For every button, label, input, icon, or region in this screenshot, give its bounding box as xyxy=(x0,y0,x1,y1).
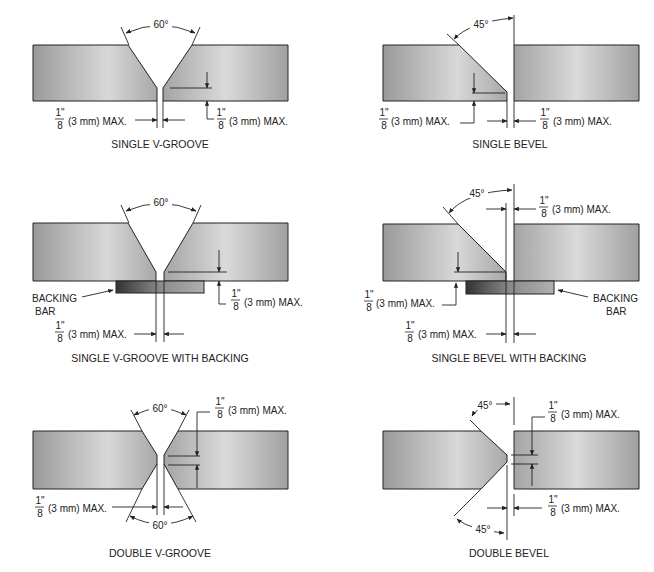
angle-label: 60° xyxy=(153,19,168,30)
caption: SINGLE BEVEL xyxy=(472,138,547,150)
svg-text:8: 8 xyxy=(57,333,63,344)
svg-text:1": 1" xyxy=(540,107,550,118)
svg-text:(3 mm) MAX.: (3 mm) MAX. xyxy=(552,204,611,215)
root-opening-dimension: 1" 8 (3 mm) MAX. xyxy=(55,107,127,131)
top-root-opening-dimension: 1" 8 (3 mm) MAX. xyxy=(539,195,611,219)
angle-label-top: 60° xyxy=(152,403,167,414)
svg-text:1": 1" xyxy=(55,107,65,118)
root-opening-dimension: 1" 8 (3 mm) MAX. xyxy=(548,494,620,518)
right-plate xyxy=(514,224,639,281)
svg-text:8: 8 xyxy=(37,508,43,519)
svg-text:1": 1" xyxy=(215,396,225,407)
caption: DOUBLE BEVEL xyxy=(469,547,549,559)
root-opening-dimension: 1" 8 (3 mm) MAX. xyxy=(405,320,477,344)
svg-text:8: 8 xyxy=(407,333,413,344)
left-plate xyxy=(33,431,157,489)
svg-text:(3 mm) MAX.: (3 mm) MAX. xyxy=(48,503,107,514)
panel-double-bevel: 45° 45° 1" 8 (3 mm) MAX. 1" 8 (3 mm) MAX… xyxy=(383,397,639,559)
weld-joint-diagram: 60° 1" 8 (3 mm) MAX. 1" 8 (3 mm) MAX. SI… xyxy=(0,0,654,572)
root-opening-dimension: 1" 8 (3 mm) MAX. xyxy=(55,320,127,344)
angle-label-top: 45° xyxy=(477,400,492,411)
left-plate xyxy=(33,45,157,101)
caption: SINGLE V-GROOVE xyxy=(111,138,208,150)
root-face-dimension: 1" 8 (3 mm) MAX. xyxy=(231,288,303,312)
angle-label-bottom: 60° xyxy=(152,520,167,531)
angle-label: 45° xyxy=(469,188,484,199)
svg-text:8: 8 xyxy=(218,120,224,131)
root-face-dimension: 1" 8 (3 mm) MAX. xyxy=(215,396,287,420)
root-opening-dimension: 1" 8 (3 mm) MAX. xyxy=(540,107,612,131)
backing-label-2: BAR xyxy=(35,306,56,317)
caption: SINGLE BEVEL WITH BACKING xyxy=(432,352,587,364)
backing-label: BACKING xyxy=(32,293,77,304)
angle-label-bottom: 45° xyxy=(475,524,490,535)
panel-single-v-groove-with-backing: 60° 1" 8 (3 mm) MAX. BACKING BAR 1" 8 (3… xyxy=(32,197,303,364)
svg-text:1": 1" xyxy=(548,494,558,505)
svg-text:1": 1" xyxy=(55,320,65,331)
caption: SINGLE V-GROOVE WITH BACKING xyxy=(71,352,248,364)
svg-text:8: 8 xyxy=(217,409,223,420)
svg-text:1": 1" xyxy=(379,107,389,118)
panel-single-bevel: 45° 1" 8 (3 mm) MAX. 1" 8 (3 mm) MAX. SI… xyxy=(379,15,639,150)
root-face-dimension: 1" 8 (3 mm) MAX. xyxy=(548,400,620,424)
root-opening-dimension: 1" 8 (3 mm) MAX. xyxy=(35,495,107,519)
angle-label: 45° xyxy=(473,19,488,30)
backing-label: BACKING xyxy=(593,293,638,304)
backing-label-2: BAR xyxy=(606,306,627,317)
svg-text:(3 mm) MAX.: (3 mm) MAX. xyxy=(68,116,127,127)
svg-text:8: 8 xyxy=(366,302,372,313)
right-plate xyxy=(163,45,288,101)
caption: DOUBLE V-GROOVE xyxy=(109,547,211,559)
root-face-dimension: 1" 8 (3 mm) MAX. xyxy=(216,107,287,131)
left-plate xyxy=(33,223,156,281)
svg-text:8: 8 xyxy=(550,507,556,518)
svg-text:1": 1" xyxy=(364,289,374,300)
backing-bar xyxy=(116,281,204,293)
svg-text:8: 8 xyxy=(542,120,548,131)
svg-text:(3 mm) MAX.: (3 mm) MAX. xyxy=(376,298,435,309)
svg-text:(3 mm) MAX.: (3 mm) MAX. xyxy=(228,405,287,416)
right-plate xyxy=(514,431,639,489)
right-plate xyxy=(514,45,639,101)
svg-text:8: 8 xyxy=(550,413,556,424)
svg-text:1": 1" xyxy=(35,495,45,506)
svg-text:1": 1" xyxy=(405,320,415,331)
panel-single-v-groove: 60° 1" 8 (3 mm) MAX. 1" 8 (3 mm) MAX. SI… xyxy=(33,19,288,150)
left-plate xyxy=(383,431,507,489)
svg-text:1": 1" xyxy=(231,288,241,299)
svg-text:(3 mm) MAX.: (3 mm) MAX. xyxy=(229,116,288,127)
right-plate xyxy=(164,431,288,489)
svg-text:8: 8 xyxy=(233,301,239,312)
svg-text:(3 mm) MAX.: (3 mm) MAX. xyxy=(553,116,612,127)
svg-text:(3 mm) MAX.: (3 mm) MAX. xyxy=(391,116,450,127)
svg-text:(3 mm) MAX.: (3 mm) MAX. xyxy=(418,329,477,340)
svg-text:(3 mm) MAX.: (3 mm) MAX. xyxy=(561,409,620,420)
backing-bar xyxy=(466,281,554,294)
svg-text:1": 1" xyxy=(216,107,226,118)
svg-text:(3 mm) MAX.: (3 mm) MAX. xyxy=(68,329,127,340)
angle-label: 60° xyxy=(153,197,168,208)
svg-text:8: 8 xyxy=(541,208,547,219)
root-face-dimension: 1" 8 (3 mm) MAX. xyxy=(364,289,435,313)
panel-double-v-groove: 60° 60° 1" 8 (3 mm) MAX. 1" 8 (3 mm) MAX… xyxy=(33,396,288,559)
root-face-dimension: 1" 8 (3 mm) MAX. xyxy=(379,107,450,131)
svg-text:(3 mm) MAX.: (3 mm) MAX. xyxy=(561,503,620,514)
svg-text:(3 mm) MAX.: (3 mm) MAX. xyxy=(244,297,303,308)
svg-text:8: 8 xyxy=(381,120,387,131)
panel-single-bevel-with-backing: 45° 1" 8 (3 mm) MAX. 1" 8 (3 mm) MAX. BA… xyxy=(364,184,639,364)
svg-text:1": 1" xyxy=(539,195,549,206)
svg-text:8: 8 xyxy=(57,120,63,131)
left-plate xyxy=(383,224,506,281)
svg-text:1": 1" xyxy=(548,400,558,411)
